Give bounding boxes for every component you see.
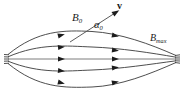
field-line-outer-bottom (8, 63, 176, 88)
field-line-canvas (0, 0, 184, 100)
arrow-outer-top-left (57, 32, 65, 39)
field-line-inner-top (8, 46, 176, 57)
label-alpha0-subscript: 0 (100, 24, 103, 31)
arrow-inner-bottom-right (112, 65, 120, 71)
arrow-inner-top-left (58, 44, 66, 50)
magnetic-mirror-figure: B0 α0 v Bmax (0, 0, 184, 100)
arrow-axis-left (58, 56, 65, 61)
label-bmax-subscript: max (156, 37, 166, 44)
arrow-outer-bottom-right (111, 79, 119, 86)
left-throat-convergence (4, 55, 9, 64)
right-throat-convergence (175, 55, 180, 63)
arrow-outer-bottom-left (57, 79, 65, 86)
label-bmax: Bmax (150, 33, 166, 44)
label-b0-subscript: 0 (79, 17, 82, 24)
label-velocity: v (117, 1, 122, 11)
field-line-inner-bottom (8, 61, 176, 71)
label-alpha0: α0 (94, 20, 103, 31)
arrow-axis-right (112, 56, 119, 61)
label-b0-symbol: B (72, 11, 79, 23)
label-velocity-symbol: v (117, 0, 122, 11)
label-b0: B0 (72, 12, 82, 25)
